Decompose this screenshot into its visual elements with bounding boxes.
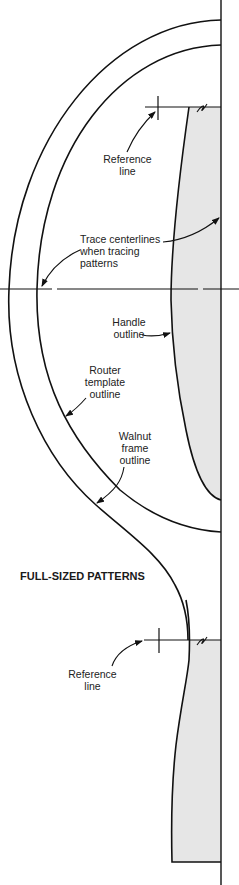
label-walnut-frame-outline: Walnut frame outline [110, 430, 160, 466]
arrow-walnut-frame [97, 467, 124, 503]
label-trace-centerlines: Trace centerlines when tracing patterns [80, 233, 160, 269]
handle-lower-fill [172, 640, 221, 862]
arrow-reference-bottom [112, 641, 142, 666]
label-reference-line-bottom: Reference line [65, 668, 120, 692]
label-reference-line-top: Reference line [80, 153, 175, 177]
arrow-trace-centerline-left [42, 250, 80, 286]
label-handle-outline: Handle outline [104, 316, 154, 340]
arrow-reference-top [127, 112, 155, 152]
handle-upper-fill [171, 107, 221, 500]
arrow-router-template [66, 398, 86, 416]
label-router-template-outline: Router template outline [80, 364, 130, 400]
page-title: FULL-SIZED PATTERNS [20, 570, 145, 582]
